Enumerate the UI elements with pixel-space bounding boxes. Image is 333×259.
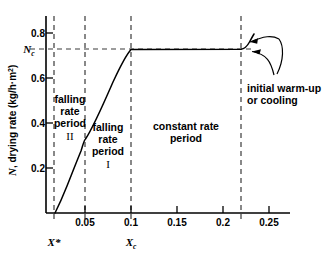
warmup-line1: initial warm-up <box>247 82 321 94</box>
x-tick-label-0p2: 0.2 <box>216 217 230 228</box>
y-tick-label-0p8: 0.8 <box>31 28 45 39</box>
x-tick-label-0p05: 0.05 <box>75 217 95 228</box>
svg-text:Xc: Xc <box>125 236 137 251</box>
y-axis-title-paren: ) <box>7 65 18 68</box>
x-tick-label-0p25: 0.25 <box>259 217 279 228</box>
axes <box>46 16 290 213</box>
constant-line2: period <box>170 132 202 144</box>
annotation-falling-rate-period-i: falling rate period I <box>92 121 124 170</box>
region-i-line2: rate <box>98 133 117 145</box>
chart-canvas: 0.8 0.6 0.4 0.2 0.05 0.1 0.15 0.2 0.25 N… <box>0 0 333 259</box>
region-ii-line1: falling <box>55 93 86 105</box>
x-tick-labels: 0.05 0.1 0.15 0.2 0.25 <box>75 217 279 228</box>
warmup-line2: or cooling <box>247 94 298 106</box>
warmup-leader-arrows <box>250 37 283 75</box>
annotation-initial-warmup-or-cooling: initial warm-up or cooling <box>247 82 321 106</box>
region-i-line1: falling <box>93 121 124 133</box>
nc-axis-label: Nc <box>22 43 35 58</box>
y-tick-label-0p2: 0.2 <box>31 163 45 174</box>
region-ii-line3: period <box>54 117 86 129</box>
region-i-line3: period <box>92 145 124 157</box>
x-star-label: X* <box>47 236 61 248</box>
drying-rate-chart: 0.8 0.6 0.4 0.2 0.05 0.1 0.15 0.2 0.25 N… <box>0 0 333 259</box>
y-tick-label-0p4: 0.4 <box>31 118 45 129</box>
nc-subscript: c <box>31 49 35 58</box>
svg-text:Nc: Nc <box>22 43 35 58</box>
x-tick-label-0p15: 0.15 <box>167 217 187 228</box>
x-tick-label-0p1: 0.1 <box>124 217 138 228</box>
annotation-constant-rate-period: constant rate period <box>153 120 219 144</box>
region-i-line4: I <box>106 158 110 170</box>
annotation-falling-rate-period-ii: falling rate period II <box>54 93 86 142</box>
y-axis-title-rest: , drying rate (kg/h·m <box>7 72 18 168</box>
region-ii-line2: rate <box>60 105 79 117</box>
leader-arrow-lower <box>252 52 274 76</box>
y-axis-title: N, drying rate (kg/h·m2) <box>6 65 18 177</box>
region-ii-line4: II <box>66 130 74 142</box>
y-tick-label-0p6: 0.6 <box>31 73 45 84</box>
svg-text:N, drying rate (kg/h·m2): N, drying rate (kg/h·m2) <box>6 65 18 177</box>
x-special-labels: X* Xc <box>47 236 137 251</box>
y-ticks <box>46 33 53 168</box>
leader-stem <box>277 39 283 74</box>
xc-subscript: c <box>133 242 137 251</box>
constant-line1: constant rate <box>153 120 219 132</box>
